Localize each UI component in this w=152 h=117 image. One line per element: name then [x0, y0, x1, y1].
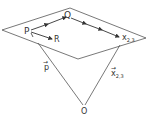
- vector-p-r: [31, 32, 52, 39]
- label-q: Q: [64, 10, 71, 20]
- label-p: P: [24, 26, 30, 36]
- arrow-vector-x23: →: [111, 64, 116, 71]
- vector-plane-diagram: Q P R x2,3 O p → x2,3 →: [0, 0, 152, 117]
- arrow-vector-p: →: [43, 58, 48, 65]
- label-x23: x2,3: [122, 33, 135, 43]
- edge-q-x: [71, 18, 119, 37]
- label-r: R: [54, 35, 60, 44]
- p-tick: [31, 33, 33, 37]
- label-o: O: [81, 107, 87, 116]
